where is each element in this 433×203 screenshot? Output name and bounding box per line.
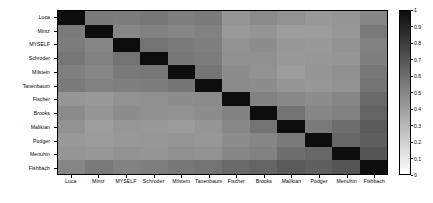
heatmap-cell <box>195 52 222 66</box>
heatmap-cell <box>58 65 85 79</box>
heatmap-cell <box>58 133 85 147</box>
heatmap-cell <box>250 25 277 39</box>
x-tick-label-myself: MYSELF <box>112 178 140 190</box>
y-tick-label-fischer: Fischer <box>0 93 53 107</box>
x-tick-label-brooks: Brooks <box>250 178 278 190</box>
heatmap-cell <box>113 38 140 52</box>
heatmap-cell <box>250 38 277 52</box>
heatmap-cell <box>58 120 85 134</box>
heatmap-cell <box>168 79 195 93</box>
heatmap-cell <box>113 25 140 39</box>
heatmap-cell <box>332 65 359 79</box>
heatmap-cell <box>250 79 277 93</box>
heatmap-cell <box>195 65 222 79</box>
colorbar-tick-0-6: 0.6 <box>411 72 421 80</box>
heatmap-cell <box>277 79 304 93</box>
heatmap-cell <box>113 65 140 79</box>
y-tick-label-podger: Podger <box>0 134 53 148</box>
heatmap-cell <box>140 38 167 52</box>
heatmap-cell <box>113 79 140 93</box>
heatmap-cell <box>222 25 249 39</box>
heatmap-cell <box>305 65 332 79</box>
x-tick-label-luca: Luca <box>57 178 85 190</box>
y-tick-label-brooks: Brooks <box>0 106 53 120</box>
heatmap-cell <box>58 11 85 25</box>
heatmap-cell <box>305 120 332 134</box>
heatmap-cell <box>85 79 112 93</box>
heatmap-cell <box>58 79 85 93</box>
y-tick-label-luca: Luca <box>0 10 53 24</box>
x-tick-label-podger: Podger <box>305 178 333 190</box>
heatmap-cell <box>332 52 359 66</box>
colorbar-tick-0-1: 0.1 <box>411 155 421 163</box>
heatmap-cell <box>85 147 112 161</box>
x-tick-label-mintz: Mintz <box>85 178 113 190</box>
colorbar-tick-labels: 10.90.80.70.60.50.40.30.20.10 <box>411 10 433 175</box>
heatmap-cell <box>195 106 222 120</box>
heatmap-cell <box>277 133 304 147</box>
heatmap-cell <box>360 65 387 79</box>
heatmap-cell <box>277 160 304 174</box>
heatmap-cell <box>250 11 277 25</box>
x-tick-label-fishbach: Fishbach <box>360 178 388 190</box>
heatmap-cell-grid <box>58 11 387 174</box>
heatmap-cell <box>168 11 195 25</box>
heatmap-cell <box>305 11 332 25</box>
heatmap-cell <box>168 38 195 52</box>
heatmap-cell <box>168 92 195 106</box>
heatmap-cell <box>277 147 304 161</box>
heatmap-cell <box>140 92 167 106</box>
heatmap-cell <box>332 133 359 147</box>
heatmap-cell <box>113 11 140 25</box>
heatmap-cell <box>250 160 277 174</box>
heatmap-cell <box>195 79 222 93</box>
heatmap-cell <box>58 147 85 161</box>
heatmap-cell <box>168 25 195 39</box>
heatmap-cell <box>85 106 112 120</box>
heatmap-cell <box>332 11 359 25</box>
heatmap-cell <box>168 106 195 120</box>
heatmap-cell <box>195 92 222 106</box>
heatmap-cell <box>277 120 304 134</box>
y-tick-label-schroder: Schroder <box>0 51 53 65</box>
heatmap-cell <box>222 79 249 93</box>
heatmap-cell <box>195 25 222 39</box>
heatmap-cell <box>113 52 140 66</box>
heatmap-cell <box>305 52 332 66</box>
heatmap-cell <box>250 52 277 66</box>
heatmap-cell <box>195 38 222 52</box>
heatmap-cell <box>195 133 222 147</box>
heatmap-cell <box>85 160 112 174</box>
heatmap-cell <box>85 25 112 39</box>
heatmap-cell <box>305 25 332 39</box>
heatmap-cell <box>277 52 304 66</box>
heatmap-cell <box>222 65 249 79</box>
heatmap-cell <box>140 160 167 174</box>
heatmap-cell <box>360 147 387 161</box>
heatmap-cell <box>140 106 167 120</box>
heatmap-cell <box>305 106 332 120</box>
heatmap-cell <box>168 65 195 79</box>
colorbar-tick-1: 1 <box>411 6 417 14</box>
y-tick-label-malikian: Malikian <box>0 120 53 134</box>
heatmap-cell <box>222 38 249 52</box>
heatmap-cell <box>85 38 112 52</box>
y-tick-label-milstein: Milstein <box>0 65 53 79</box>
heatmap-cell <box>332 92 359 106</box>
colorbar-tick-0-9: 0.9 <box>411 23 421 31</box>
heatmap-cell <box>305 38 332 52</box>
heatmap-cell <box>360 79 387 93</box>
heatmap-cell <box>222 160 249 174</box>
heatmap-cell <box>360 133 387 147</box>
x-tick-label-tanenbaum: Tanenbaum <box>195 178 223 190</box>
x-tick-label-menuhin: Menuhin <box>333 178 361 190</box>
colorbar-tick-0: 0 <box>411 171 417 179</box>
y-tick-label-mintz: Mintz <box>0 24 53 38</box>
colorbar-tick-0-7: 0.7 <box>411 56 421 64</box>
heatmap-cell <box>195 160 222 174</box>
heatmap-cell <box>113 120 140 134</box>
heatmap-cell <box>85 65 112 79</box>
heatmap-cell <box>277 106 304 120</box>
heatmap-cell <box>113 160 140 174</box>
heatmap-cell <box>58 38 85 52</box>
